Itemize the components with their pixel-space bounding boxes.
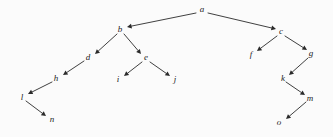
tree-edge-e-i — [124, 62, 142, 76]
tree-node-m: m — [307, 94, 314, 103]
tree-node-g: g — [309, 49, 314, 58]
tree-edge-e-j — [150, 62, 170, 76]
tree-diagram: abcdefghijklmno — [0, 0, 333, 137]
tree-edge-h-l — [28, 82, 52, 94]
tree-edge-a-c — [208, 13, 276, 30]
tree-edge-b-e — [124, 34, 141, 54]
tree-edge-g-k — [289, 58, 308, 75]
tree-edge-b-d — [95, 34, 117, 54]
tree-node-l: l — [21, 93, 24, 102]
tree-edge-c-f — [257, 36, 277, 51]
arrowhead-icon — [165, 71, 170, 76]
tree-node-h: h — [54, 74, 59, 83]
arrowhead-icon — [127, 24, 132, 29]
arrowhead-icon — [63, 70, 68, 75]
tree-node-e: e — [144, 53, 148, 62]
tree-node-c: c — [279, 27, 283, 36]
tree-node-o: o — [277, 118, 282, 127]
tree-edge-k-m — [286, 82, 305, 95]
tree-edge-d-h — [63, 61, 84, 75]
arrowhead-icon — [300, 90, 305, 95]
tree-node-a: a — [200, 5, 205, 14]
tree-node-i: i — [117, 75, 120, 84]
tree-node-j: j — [174, 75, 177, 84]
tree-edge-m-o — [286, 102, 306, 119]
arrowhead-icon — [302, 46, 307, 50]
tree-node-d: d — [86, 53, 91, 62]
arrowhead-icon — [257, 46, 262, 51]
arrowhead-icon — [124, 71, 129, 76]
tree-edge-c-g — [285, 36, 307, 50]
tree-node-n: n — [50, 115, 55, 124]
arrowhead-icon — [41, 111, 46, 116]
tree-node-k: k — [281, 74, 285, 83]
tree-edge-a-b — [127, 13, 196, 28]
tree-node-b: b — [118, 25, 123, 34]
tree-node-f: f — [250, 50, 253, 59]
tree-edge-l-n — [26, 101, 46, 116]
arrowhead-icon — [271, 26, 276, 31]
